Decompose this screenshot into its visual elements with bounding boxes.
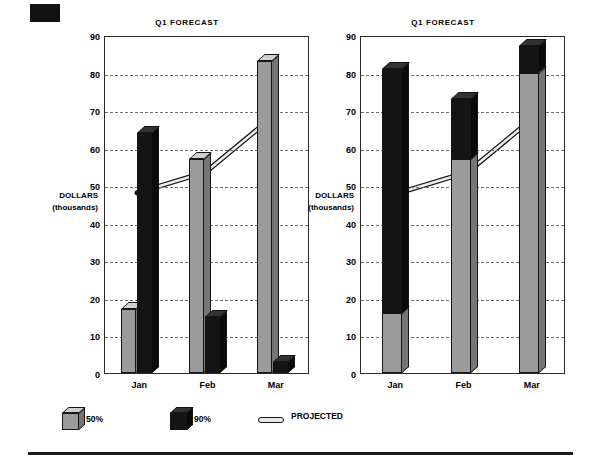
- bar-90-jan: [137, 133, 152, 373]
- x-axis-tick-label: Feb: [199, 380, 215, 390]
- legend-item-90: 90%: [170, 408, 211, 430]
- y-axis-tick-label: 20: [346, 295, 356, 305]
- x-axis-tick-label: Feb: [455, 380, 471, 390]
- x-axis-tick-label: Jan: [387, 380, 403, 390]
- y-axis-tick-label: 80: [346, 70, 356, 80]
- legend-item-projected: PROJECTED: [258, 408, 343, 424]
- legend: 50% 90% PROJECTED: [62, 408, 382, 442]
- y-axis-tick-label: 50: [90, 182, 100, 192]
- bar-90-feb: [205, 317, 220, 373]
- y-axis-tick-label: 60: [346, 145, 356, 155]
- bar-50-jan: [121, 309, 136, 373]
- plot-area: 0102030405060708090JanFebMar: [360, 36, 565, 374]
- y-axis-tick-label: 60: [90, 145, 100, 155]
- y-axis-tick-label: 30: [346, 257, 356, 267]
- cube-black-icon: [170, 413, 187, 430]
- x-axis-tick-label: Mar: [524, 380, 540, 390]
- legend-label: 50%: [86, 414, 103, 424]
- corner-block-mark: [30, 4, 60, 22]
- bar-50-feb: [451, 159, 471, 373]
- y-axis-tick-label: 10: [90, 332, 100, 342]
- bar-50-mar: [257, 61, 272, 373]
- bottom-divider: [28, 452, 573, 455]
- y-axis-label-line1: DOLLARS: [12, 190, 98, 202]
- projected-line-icon: [258, 417, 284, 424]
- y-axis-label-line2: (thousands): [12, 202, 98, 214]
- y-axis-tick-label: 70: [90, 107, 100, 117]
- bar-50-mar: [519, 73, 539, 373]
- chart-title: Q1 FORECAST: [318, 18, 568, 27]
- y-axis-tick-label: 30: [90, 257, 100, 267]
- y-axis-label-line1: DOLLARS: [268, 190, 354, 202]
- legend-label: PROJECTED: [291, 411, 343, 421]
- y-axis-tick-label: 20: [90, 295, 100, 305]
- y-axis-tick-label: 70: [346, 107, 356, 117]
- bar-90-mar: [519, 46, 539, 72]
- bar-50-feb: [189, 159, 204, 373]
- legend-label: 90%: [194, 414, 211, 424]
- y-axis-tick-label: 10: [346, 332, 356, 342]
- y-axis-tick-label: 40: [346, 220, 356, 230]
- y-axis-tick-label: 40: [90, 220, 100, 230]
- bar-90-jan: [382, 69, 402, 313]
- chart-title: Q1 FORECAST: [62, 18, 312, 27]
- y-axis-tick-label: 80: [90, 70, 100, 80]
- y-axis-tick-label: 50: [346, 182, 356, 192]
- y-axis-label: DOLLARS (thousands): [12, 190, 98, 214]
- y-axis-tick-label: 0: [95, 370, 100, 380]
- bar-90-feb: [451, 99, 471, 159]
- y-axis-tick-label: 0: [351, 370, 356, 380]
- cube-gray-icon: [62, 413, 79, 430]
- y-axis-tick-label: 90: [90, 32, 100, 42]
- y-axis-label-line2: (thousands): [268, 202, 354, 214]
- y-axis-tick-label: 90: [346, 32, 356, 42]
- bar-90-mar: [273, 362, 288, 373]
- bar-50-jan: [382, 313, 402, 373]
- legend-item-50: 50%: [62, 408, 103, 430]
- x-axis-tick-label: Jan: [131, 380, 147, 390]
- figure-page: Q1 FORECAST DOLLARS (thousands) 01020304…: [0, 0, 595, 467]
- x-axis-tick-label: Mar: [268, 380, 284, 390]
- y-axis-label: DOLLARS (thousands): [268, 190, 354, 214]
